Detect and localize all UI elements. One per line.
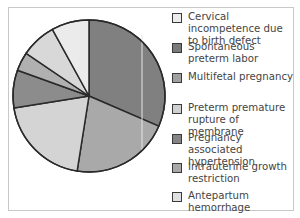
legend-swatch [172,192,182,202]
legend-label: Intrauterine growth restriction [188,161,296,185]
legend-swatch [172,13,182,23]
legend-swatch [172,43,182,53]
legend-swatch [172,104,182,114]
pie-slice [14,96,89,171]
legend-label: Antepartum hemorrhage [188,190,296,214]
legend-label: Multifetal pregnancy [188,71,296,83]
legend-item-multifetal-pregnancy: Multifetal pregnancy [172,71,296,83]
legend-item-iugr: Intrauterine growth restriction [172,161,296,185]
legend-swatch [172,73,182,83]
legend-label: Spontaneous preterm labor [188,41,296,65]
legend-item-spontaneous-preterm-labor: Spontaneous preterm labor [172,41,296,65]
legend-swatch [172,134,182,144]
legend-item-antepartum-hemorrhage: Antepartum hemorrhage [172,190,296,214]
legend-swatch [172,163,182,173]
